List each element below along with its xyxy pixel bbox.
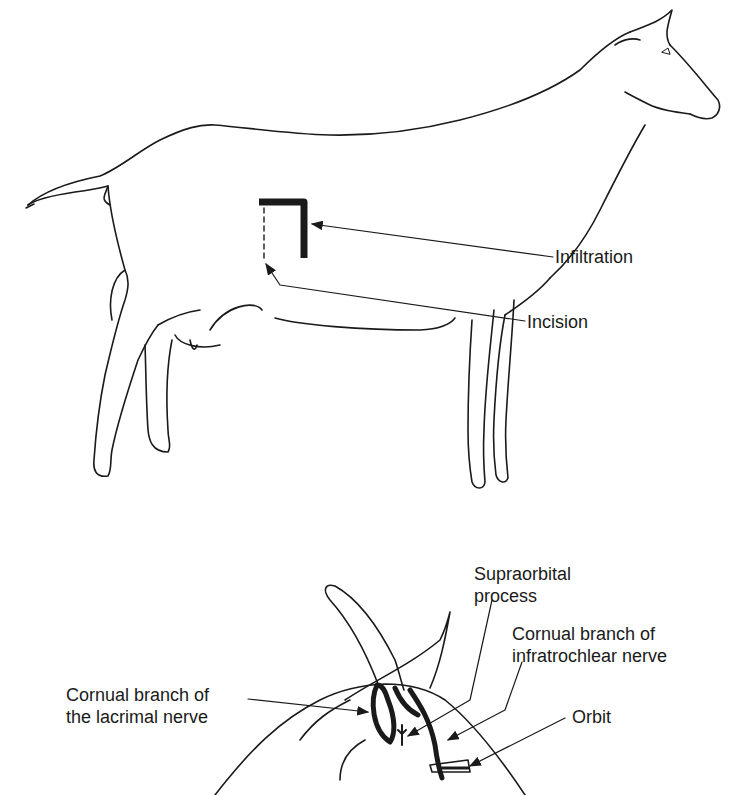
orbit-leader bbox=[470, 718, 565, 766]
lacrimal-leader bbox=[248, 699, 368, 712]
label-lacrimal-nerve: Cornual branch of the lacrimal nerve bbox=[66, 684, 209, 728]
label-supraorbital-line1: Supraorbital bbox=[474, 563, 571, 585]
label-supraorbital-process: Supraorbital process bbox=[474, 563, 571, 607]
infratrochlear-leader bbox=[448, 662, 522, 740]
label-infratrochlear-nerve: Cornual branch of infratrochlear nerve bbox=[512, 623, 667, 667]
supraorbital-leader bbox=[408, 600, 492, 736]
label-lacrimal-line1: Cornual branch of bbox=[66, 684, 209, 706]
label-incision: Incision bbox=[527, 311, 588, 333]
label-orbit: Orbit bbox=[572, 706, 611, 728]
infiltration-leader bbox=[312, 224, 553, 257]
supraorbital-small-branch bbox=[398, 725, 406, 745]
label-infiltration: Infiltration bbox=[555, 246, 633, 268]
label-supraorbital-line2: process bbox=[474, 585, 571, 607]
label-infratrochlear-line1: Cornual branch of bbox=[512, 623, 667, 645]
head-outline bbox=[215, 585, 525, 795]
label-infratrochlear-line2: infratrochlear nerve bbox=[512, 645, 667, 667]
infiltration-marker bbox=[259, 202, 304, 258]
incision-leader bbox=[266, 264, 525, 321]
label-lacrimal-line2: the lacrimal nerve bbox=[66, 706, 209, 728]
goat-body-diagram bbox=[0, 0, 730, 795]
